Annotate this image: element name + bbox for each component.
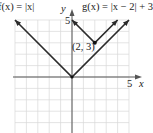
graph-figure: f(x) = |x| y 5 g(x) = |x − 2| + 3 (2, 3)… [0, 0, 153, 133]
graph-canvas [0, 0, 153, 133]
g-function-label: g(x) = |x − 2| + 3 [82, 2, 153, 13]
x-tick-label: 5 [127, 79, 132, 90]
origin-point [70, 75, 73, 78]
y-axis-label: y [61, 4, 66, 15]
y-axis-arrow-icon [70, 9, 75, 16]
vertex-label: (2, 3) [72, 42, 95, 53]
y-tick-label: 5 [65, 16, 70, 27]
f-function-label: f(x) = |x| [0, 2, 34, 13]
x-axis-label: x [139, 79, 144, 90]
